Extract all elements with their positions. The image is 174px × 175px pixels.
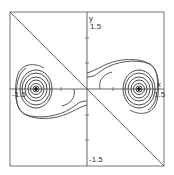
phase-portrait-plot <box>0 0 174 175</box>
y-max-label: 1.5 <box>90 23 101 31</box>
x-max-label: 1.5 <box>154 91 165 99</box>
y-min-label: -1.5 <box>89 156 103 164</box>
x-min-label: -1.5 <box>12 91 26 99</box>
x-axis-label: x <box>157 81 161 89</box>
right-spiral <box>123 70 155 108</box>
left-spiral <box>20 70 52 108</box>
